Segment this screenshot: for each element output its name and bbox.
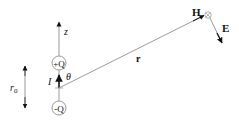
dipole-diagram: z +Q I θ -Q r0 r H <box>0 0 239 125</box>
separation-label: r0 <box>10 82 18 95</box>
electric-field: E <box>210 18 229 43</box>
z-axis-label: z <box>63 26 68 37</box>
positive-charge: +Q <box>52 56 66 70</box>
current-label: I <box>47 76 52 87</box>
negative-charge-label: -Q <box>54 104 64 114</box>
electric-field-label: E <box>222 22 229 34</box>
positive-charge-label: +Q <box>53 59 65 69</box>
radius-label: r <box>136 53 141 64</box>
negative-charge: -Q <box>52 101 66 115</box>
separation-arrow: r0 <box>10 66 25 108</box>
into-page-icon <box>205 12 211 18</box>
z-axis: z <box>59 22 68 56</box>
angle-theta-label: θ <box>66 71 71 82</box>
magnetic-field-label: H <box>192 6 201 18</box>
radius-vector: r <box>59 16 204 89</box>
